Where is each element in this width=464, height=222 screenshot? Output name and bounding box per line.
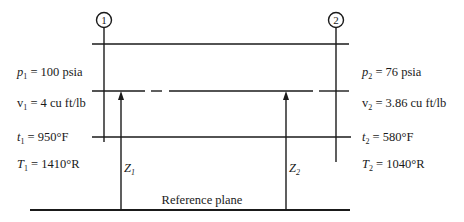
station-2-temperature-f: t2 = 580°F	[362, 130, 414, 146]
station-1-marker: 1	[97, 13, 112, 143]
z1-elevation-arrow: Z1	[118, 91, 135, 210]
flow-diagram: 1 2 Reference plane Z1 Z2 p1 = 100 psia …	[0, 0, 464, 222]
station-2-number: 2	[333, 14, 339, 26]
station-1-pressure: p1 = 100 psia	[16, 65, 83, 81]
station-2-pressure: p2 = 76 psia	[361, 65, 422, 81]
station-1-properties: p1 = 100 psia v1 = 4 cu ft/lb t1 = 950°F…	[16, 65, 86, 173]
arrow-up-icon	[283, 91, 289, 100]
station-1-temperature-f: t1 = 950°F	[17, 130, 69, 146]
station-1-specific-volume: v1 = 4 cu ft/lb	[17, 96, 86, 112]
station-1-number: 1	[101, 14, 107, 26]
station-2-specific-volume: v2 = 3.86 cu ft/lb	[362, 96, 446, 112]
reference-plane-label: Reference plane	[162, 193, 243, 207]
station-2-properties: p2 = 76 psia v2 = 3.86 cu ft/lb t2 = 580…	[361, 65, 446, 173]
station-1-temperature-r: T1 = 1410°R	[17, 157, 80, 173]
arrow-up-icon	[118, 91, 124, 100]
z2-label: Z2	[289, 161, 300, 177]
station-2-temperature-r: T2 = 1040°R	[362, 157, 425, 173]
z1-label: Z1	[124, 161, 135, 177]
station-2-marker: 2	[329, 13, 344, 163]
z2-elevation-arrow: Z2	[283, 91, 300, 210]
